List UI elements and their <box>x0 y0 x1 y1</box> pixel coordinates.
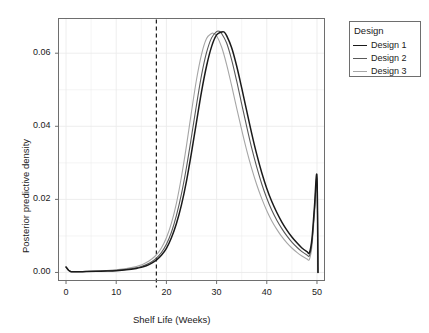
y-tick-label: 0.02 <box>17 193 51 203</box>
legend-key-line-icon <box>353 71 367 72</box>
density-curves <box>66 31 318 273</box>
x-tick-label: 20 <box>151 287 181 297</box>
x-tick-label: 30 <box>202 287 232 297</box>
legend-title: Design <box>354 25 384 36</box>
figure-container: Posterior predictive density Shelf Life … <box>0 0 429 333</box>
legend-item-design-3[interactable]: Design 3 <box>353 65 407 77</box>
y-tick-label: 0.00 <box>17 266 51 276</box>
x-tick-label: 0 <box>51 287 81 297</box>
legend-key-line-icon <box>353 45 367 46</box>
legend-item-design-1[interactable]: Design 1 <box>353 39 407 51</box>
y-tick-label: 0.04 <box>17 120 51 130</box>
legend-item-label: Design 1 <box>371 40 407 50</box>
x-tick-label: 50 <box>302 287 332 297</box>
curve-design-1 <box>66 32 318 273</box>
legend-item-design-2[interactable]: Design 2 <box>353 52 407 64</box>
x-tick-label: 40 <box>252 287 282 297</box>
x-axis-title: Shelf Life (Weeks) <box>133 314 210 325</box>
x-tick-label: 10 <box>101 287 131 297</box>
legend-item-label: Design 3 <box>371 66 407 76</box>
y-tick-label: 0.06 <box>17 47 51 57</box>
legend-key-line-icon <box>353 58 367 59</box>
legend-item-label: Design 2 <box>371 53 407 63</box>
